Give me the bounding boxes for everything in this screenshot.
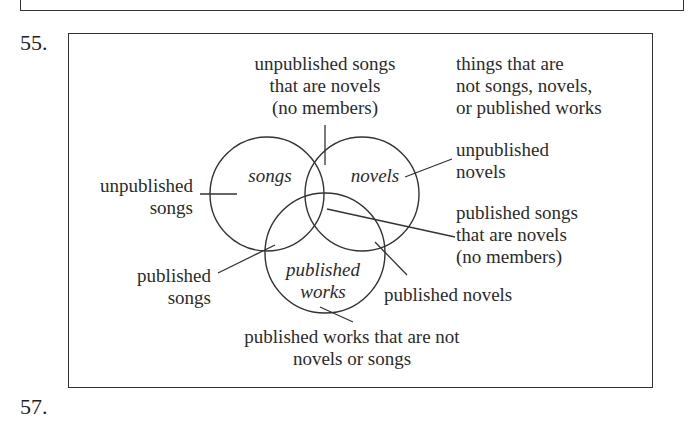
leader-published-songs-novels: [327, 209, 455, 237]
annotation-bottom-center-1: published works that are not: [244, 326, 460, 347]
annotation-top-center-1: unpublished songs: [255, 53, 396, 74]
annotation-right-middle-1: published songs: [456, 202, 578, 223]
annotation-left-upper-2: songs: [150, 197, 193, 218]
annotation-bottom-right: published novels: [384, 284, 512, 305]
leader-published-only: [320, 307, 353, 322]
annotation-top-center-3: (no members): [272, 97, 378, 119]
annotation-left-lower-2: songs: [168, 287, 211, 308]
annotation-top-right-2: not songs, novels,: [456, 75, 592, 96]
annotation-right-middle-3: (no members): [456, 246, 562, 268]
annotation-right-upper-1: unpublished: [456, 139, 549, 160]
annotation-right-middle-2: that are novels: [456, 224, 567, 245]
annotation-left-upper-1: unpublished: [100, 175, 193, 196]
label-published-line2: works: [300, 281, 345, 302]
annotation-top-right-3: or published works: [456, 97, 602, 118]
label-novels: novels: [351, 165, 400, 186]
annotation-left-lower-1: published: [137, 265, 211, 286]
venn-diagram: songs novels published works unpublished…: [0, 0, 690, 425]
annotation-bottom-center-2: novels or songs: [293, 348, 411, 369]
annotation-top-right-1: things that are: [456, 53, 564, 74]
label-published-line1: published: [284, 259, 360, 280]
leader-published-novels: [375, 242, 407, 275]
annotation-top-center-2: that are novels: [270, 75, 381, 96]
annotation-right-upper-2: novels: [456, 161, 506, 182]
question-number-57: 57.: [20, 394, 48, 420]
label-songs: songs: [248, 165, 291, 186]
circle-novels: [305, 137, 419, 251]
